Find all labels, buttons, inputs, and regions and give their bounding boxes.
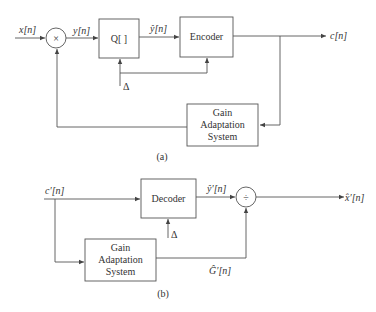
encoder-label: Encoder (190, 31, 224, 42)
step-label-b: Δ (171, 229, 178, 240)
diagram-b-decoder: c′[n] Decoder Δ ŷ′[n] ÷ x̂′[n] Gain Adap… (44, 179, 365, 300)
gain-block-b-line1: Gain (111, 242, 130, 253)
decoder-label: Decoder (152, 193, 187, 204)
step-label-a: Δ (123, 81, 130, 92)
input-label-c-prime: c′[n] (45, 185, 65, 196)
output-label-x-hat-prime: x̂′[n] (344, 192, 365, 203)
y-label: y[n] (72, 25, 90, 36)
caption-b: (b) (157, 288, 169, 300)
diagram-a-encoder: x[n] × y[n] Q[ ] ŷ[n] Encoder c[n] Δ Gai… (15, 17, 347, 163)
y-hat-label: ŷ[n] (149, 23, 167, 34)
gain-block-b-line2: Adaptation (98, 254, 142, 265)
y-hat-prime-label: ŷ′[n] (206, 183, 227, 194)
gain-output-label: Ĝ′[n] (209, 265, 231, 276)
step-line-encoder (120, 58, 207, 73)
branch-to-gain-a (260, 36, 280, 125)
input-label-x: x[n] (18, 24, 36, 35)
gain-block-a-line3: System (208, 131, 238, 142)
gain-block-b-line3: System (106, 266, 136, 277)
output-label-c: c[n] (330, 30, 347, 41)
branch-to-gain-b (55, 199, 84, 262)
multiplier-symbol: × (53, 33, 59, 44)
gain-block-a-line2: Adaptation (200, 119, 244, 130)
adaptive-quantization-diagram: x[n] × y[n] Q[ ] ŷ[n] Encoder c[n] Δ Gai… (0, 0, 376, 312)
gain-feedback-line (57, 49, 187, 127)
caption-a: (a) (156, 151, 167, 163)
divider-symbol: ÷ (243, 192, 249, 203)
quantizer-label: Q[ ] (111, 33, 127, 44)
gain-block-a-line1: Gain (213, 107, 232, 118)
